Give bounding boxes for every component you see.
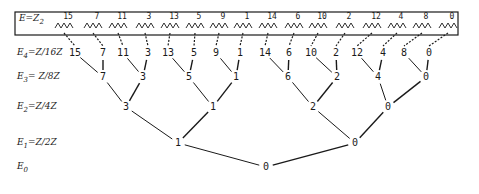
top-label: 5	[197, 13, 202, 21]
e4-node: 7	[100, 48, 106, 58]
zp-tower-diagram: E=Z2 E4=Z/16Z E3= Z/8Z E2=Z/4Z E1=Z/2Z E…	[0, 0, 479, 194]
e0-node: 0	[263, 162, 269, 172]
e4-node: 15	[69, 48, 81, 58]
e3-node: 1	[233, 72, 239, 82]
top-label: 9	[221, 13, 226, 21]
top-label: 1	[245, 13, 250, 21]
e2-node: 1	[210, 102, 216, 112]
tree-edges	[0, 0, 479, 194]
top-label: 3	[147, 13, 152, 21]
level-label-e2: E2=Z/4Z	[17, 101, 57, 114]
e3-node: 2	[334, 72, 340, 82]
e4-node: 3	[145, 48, 151, 58]
e4-node: 11	[117, 48, 129, 58]
top-label: 10	[317, 13, 327, 21]
box-label: E=Z2	[19, 13, 44, 26]
e4-node: 9	[213, 48, 219, 58]
top-label: 15	[63, 13, 73, 21]
e4-node: 13	[162, 48, 174, 58]
e4-node: 0	[426, 48, 432, 58]
e4-node: 14	[259, 48, 271, 58]
e1-node: 1	[175, 138, 181, 148]
e3-node: 6	[285, 72, 291, 82]
e1-node: 0	[352, 138, 358, 148]
level-label-e4: E4=Z/16Z	[17, 47, 63, 60]
e2-node: 3	[123, 102, 129, 112]
e3-node: 7	[100, 72, 106, 82]
top-label: 14	[267, 13, 277, 21]
e4-node: 10	[305, 48, 317, 58]
e3-node: 0	[423, 72, 429, 82]
e4-node: 8	[401, 48, 407, 58]
e4-node: 4	[380, 48, 386, 58]
top-label: 2	[347, 13, 352, 21]
top-label: 11	[117, 13, 127, 21]
top-label: 6	[296, 13, 301, 21]
e3-node: 5	[186, 72, 192, 82]
top-label: 4	[399, 13, 404, 21]
e4-node: 12	[351, 48, 363, 58]
level-label-e3: E3= Z/8Z	[17, 71, 60, 84]
e4-node: 6	[286, 48, 292, 58]
top-label: 13	[169, 13, 179, 21]
e3-node: 4	[375, 72, 381, 82]
e2-node: 0	[385, 102, 391, 112]
e3-node: 3	[140, 72, 146, 82]
e2-node: 2	[310, 102, 316, 112]
top-label: 0	[450, 13, 455, 21]
level-label-e1: E1=Z/2Z	[17, 137, 57, 150]
top-label: 7	[95, 13, 100, 21]
level-label-e0: E0	[17, 161, 28, 174]
e4-node: 1	[237, 48, 243, 58]
e4-node: 5	[191, 48, 197, 58]
top-label: 8	[424, 13, 429, 21]
e4-node: 2	[333, 48, 339, 58]
top-label: 12	[371, 13, 381, 21]
